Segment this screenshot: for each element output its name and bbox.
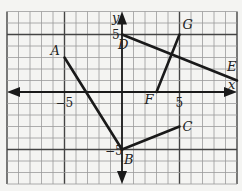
y-axis-down-arrow-icon (117, 171, 127, 184)
point-label-A: A (50, 43, 60, 58)
tick-label-x-pos5: 5 (176, 96, 184, 110)
coordinate-graph: yx−555−5 ABCDEFG (0, 0, 242, 191)
point-label-F: F (144, 92, 155, 107)
x-axis-left-arrow-icon (7, 87, 20, 97)
point-label-B: B (123, 152, 134, 167)
tick-label-x-neg5: −5 (56, 96, 74, 110)
y-axis-label: y (111, 10, 120, 25)
point-label-E: E (226, 59, 237, 74)
point-label-D: D (117, 37, 129, 52)
point-label-C: C (183, 119, 193, 134)
point-label-G: G (183, 17, 193, 32)
